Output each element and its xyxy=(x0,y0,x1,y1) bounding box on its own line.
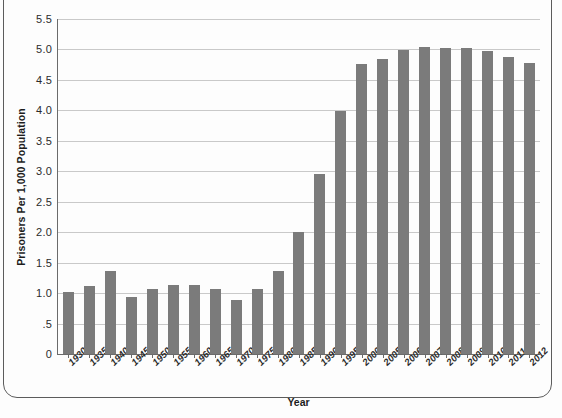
bar[interactable] xyxy=(105,271,116,354)
x-axis-title: Year xyxy=(57,396,540,408)
cropped-title-text xyxy=(150,0,510,4)
y-axis-tick-label: 5.5 xyxy=(36,13,52,25)
bar[interactable] xyxy=(398,50,409,354)
y-axis-tick-label: 5.0 xyxy=(36,43,52,55)
y-axis-tick-label: 3.5 xyxy=(36,135,52,147)
bar-slot: 2008 xyxy=(435,19,456,354)
bar[interactable] xyxy=(482,51,493,354)
bar-slot: 1975 xyxy=(247,19,268,354)
bar-slot: 1985 xyxy=(288,19,309,354)
bar-slot: 1935 xyxy=(79,19,100,354)
y-axis-tick-label: 3.0 xyxy=(36,165,52,177)
bar[interactable] xyxy=(210,289,221,354)
bar-slot: 1980 xyxy=(268,19,289,354)
bar[interactable] xyxy=(168,285,179,354)
bar-slot: 2011 xyxy=(498,19,519,354)
bar[interactable] xyxy=(503,57,514,354)
bar-series: 1930193519401945195019551960196519701975… xyxy=(58,19,540,354)
bar-slot: 2000 xyxy=(351,19,372,354)
bar-slot: 2010 xyxy=(477,19,498,354)
bar-slot: 1930 xyxy=(58,19,79,354)
y-axis-tick-label: .5 xyxy=(42,318,52,330)
bar[interactable] xyxy=(231,300,242,354)
bar[interactable] xyxy=(273,271,284,354)
bar[interactable] xyxy=(84,286,95,354)
bar-slot: 2012 xyxy=(519,19,540,354)
bar-slot: 1965 xyxy=(205,19,226,354)
y-axis-tick-label: 1.5 xyxy=(36,257,52,269)
y-axis-tick-label: 2.5 xyxy=(36,196,52,208)
bar-slot: 1970 xyxy=(226,19,247,354)
y-axis-tick-label: 4.5 xyxy=(36,74,52,86)
bar[interactable] xyxy=(440,48,451,354)
bar-slot: 2006 xyxy=(393,19,414,354)
bar-slot: 1950 xyxy=(142,19,163,354)
bar-slot: 2007 xyxy=(414,19,435,354)
y-axis-tick-label: 0 xyxy=(46,348,52,360)
bar[interactable] xyxy=(147,289,158,354)
bar[interactable] xyxy=(356,64,367,354)
bar-slot: 1990 xyxy=(309,19,330,354)
bar-slot: 2005 xyxy=(372,19,393,354)
bar-slot: 1945 xyxy=(121,19,142,354)
bar[interactable] xyxy=(293,232,304,354)
bar[interactable] xyxy=(252,289,263,354)
bar[interactable] xyxy=(461,48,472,354)
bar-slot: 1955 xyxy=(163,19,184,354)
y-axis-tick-label: 4.0 xyxy=(36,104,52,116)
bar[interactable] xyxy=(419,47,430,354)
bar-slot: 1940 xyxy=(100,19,121,354)
bar-slot: 2009 xyxy=(456,19,477,354)
bar[interactable] xyxy=(524,63,535,354)
y-axis-tick-label: 1.0 xyxy=(36,287,52,299)
bar[interactable] xyxy=(63,292,74,354)
plot-area: 0.51.01.52.02.53.03.54.04.55.05.5 193019… xyxy=(57,19,540,355)
bar[interactable] xyxy=(189,285,200,354)
chart-figure: Prisoners Per 1,000 Population 0.51.01.5… xyxy=(0,0,562,418)
y-axis-title: Prisoners Per 1,000 Population xyxy=(14,19,28,355)
bar[interactable] xyxy=(126,297,137,354)
bar-slot: 1995 xyxy=(330,19,351,354)
y-axis-title-text: Prisoners Per 1,000 Population xyxy=(15,108,27,266)
bar[interactable] xyxy=(314,174,325,354)
bar[interactable] xyxy=(377,59,388,354)
bar-slot: 1960 xyxy=(184,19,205,354)
bar[interactable] xyxy=(335,111,346,354)
y-axis-tick-label: 2.0 xyxy=(36,226,52,238)
